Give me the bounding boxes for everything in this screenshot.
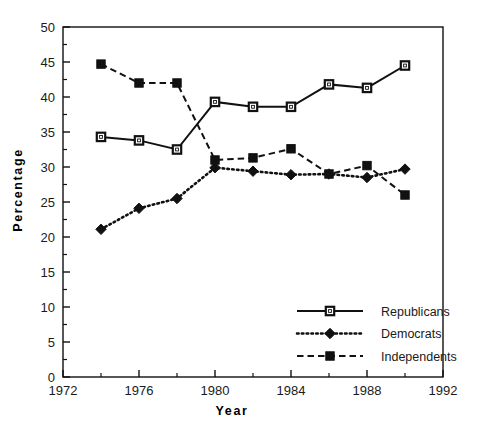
chart-canvas: 05101520253035404550 1972197619801984198… (0, 0, 490, 440)
data-point (290, 105, 293, 108)
data-point (252, 105, 255, 108)
legend-marker-independents (326, 352, 334, 360)
data-point (173, 79, 181, 87)
x-axis-title: Year (216, 404, 249, 418)
data-point (404, 64, 407, 67)
x-tick-label: 1992 (429, 383, 458, 398)
y-tick-label: 20 (41, 230, 55, 245)
x-tick-label: 1972 (49, 383, 78, 398)
chart-background (0, 0, 490, 440)
data-point (138, 139, 141, 142)
data-point (135, 79, 143, 87)
y-tick-label: 30 (41, 160, 55, 175)
data-point (249, 154, 257, 162)
data-point (211, 156, 219, 164)
y-tick-label: 5 (48, 335, 55, 350)
x-tick-label: 1976 (125, 383, 154, 398)
y-tick-label: 45 (41, 55, 55, 70)
y-tick-label: 40 (41, 90, 55, 105)
y-tick-label: 25 (41, 195, 55, 210)
data-point (97, 60, 105, 68)
data-point (366, 87, 369, 90)
x-tick-label: 1988 (353, 383, 382, 398)
y-tick-label: 50 (41, 20, 55, 35)
data-point (325, 170, 333, 178)
data-point (214, 101, 217, 104)
legend-label-republicans: Republicans (381, 305, 450, 319)
y-tick-label: 10 (41, 300, 55, 315)
y-axis-title: Percentage (11, 148, 25, 231)
data-point (100, 136, 103, 139)
line-chart: 05101520253035404550 1972197619801984198… (0, 0, 490, 440)
legend-marker-republicans (329, 310, 332, 313)
data-point (287, 145, 295, 153)
y-tick-label: 35 (41, 125, 55, 140)
data-point (363, 161, 371, 169)
x-tick-label: 1980 (201, 383, 230, 398)
data-point (401, 191, 409, 199)
y-tick-label: 15 (41, 265, 55, 280)
legend-label-democrats: Democrats (381, 327, 441, 341)
data-point (176, 148, 179, 151)
legend-label-independents: Independents (381, 350, 457, 364)
x-tick-label: 1984 (277, 383, 306, 398)
data-point (328, 83, 331, 86)
